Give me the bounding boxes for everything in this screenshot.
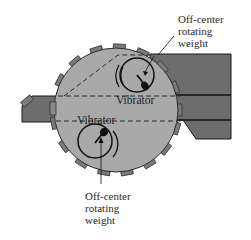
- top-weight-label-line1: Off-center: [178, 13, 224, 25]
- lower-vibrator-label: Vibrator: [77, 114, 115, 126]
- top-weight-label: Off-center rotating weight: [178, 13, 224, 49]
- upper-vibrator-label: Vibrator: [116, 94, 154, 106]
- left-chute-pad: [50, 102, 56, 115]
- vibratory-roller-diagram: Vibrator Vibrator Off-center rotating we…: [0, 0, 251, 240]
- bottom-weight-label-line2: rotating: [85, 202, 120, 214]
- bottom-weight-label-line1: Off-center: [85, 190, 131, 202]
- top-label-leader: [158, 36, 174, 55]
- bottom-weight-label: Off-center rotating weight: [85, 190, 131, 226]
- top-weight-label-line2: rotating: [178, 25, 213, 37]
- top-weight-label-line3: weight: [178, 37, 208, 49]
- bottom-weight-label-line3: weight: [85, 214, 115, 226]
